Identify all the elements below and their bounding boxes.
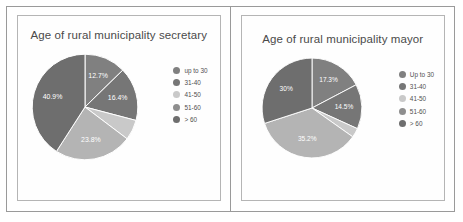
legend-item-label: > 60	[184, 116, 197, 123]
legend-item[interactable]: 31-40	[399, 82, 434, 91]
chart-panel-secretary: Age of rural municipality secretary 12.7…	[7, 7, 231, 211]
legend-item-label: > 60	[410, 120, 423, 127]
pie-chart-secretary: 12.7%16.4%23.8%40.9%	[30, 52, 140, 162]
legend-swatch-icon	[399, 83, 406, 90]
pie-chart-mayor: 17.3%14.5%35.2%30%	[260, 56, 364, 160]
page-title-secretary: Age of rural municipality secretary	[18, 29, 220, 41]
legend-item-label: 41-50	[410, 95, 426, 102]
legend-swatch-icon	[173, 91, 180, 98]
legend-swatch-icon	[399, 108, 406, 115]
pie-svg-secretary: 12.7%16.4%23.8%40.9%	[30, 52, 140, 162]
chart-inner-box-secretary: Age of rural municipality secretary 12.7…	[17, 15, 221, 201]
legend-item-label: up to 30	[184, 67, 207, 74]
legend-swatch-icon	[399, 95, 406, 102]
legend-item[interactable]: Up to 30	[399, 70, 434, 79]
pie-slice-label: 35.2%	[297, 135, 316, 142]
legend-swatch-icon	[399, 71, 406, 78]
legend-item[interactable]: > 60	[399, 119, 434, 128]
legend-item[interactable]: 51-60	[173, 103, 207, 112]
pie-slice-label: 16.4%	[108, 94, 128, 101]
legend-swatch-icon	[173, 67, 180, 74]
legend-swatch-icon	[173, 79, 180, 86]
pie-slice-label: 14.5%	[334, 103, 353, 110]
legend-item[interactable]: up to 30	[173, 66, 207, 75]
legend-swatch-icon	[173, 116, 180, 123]
legend-item[interactable]: 41-50	[399, 94, 434, 103]
page-title-mayor: Age of rural municipality mayor	[242, 33, 445, 45]
chart-legend-secretary: up to 3031-4041-5051-60> 60	[173, 66, 207, 124]
legend-item[interactable]: > 60	[173, 115, 207, 124]
chart-legend-mayor: Up to 3031-4041-5051-60> 60	[399, 70, 434, 128]
legend-item-label: 51-60	[184, 104, 200, 111]
pie-svg-mayor: 17.3%14.5%35.2%30%	[260, 56, 364, 160]
legend-item-label: 51-60	[410, 108, 426, 115]
legend-swatch-icon	[399, 120, 406, 127]
chart-panel-mayor: Age of rural municipality mayor 17.3%14.…	[231, 7, 455, 211]
pie-slice-label: 23.8%	[81, 136, 101, 143]
chart-inner-box-mayor: Age of rural municipality mayor 17.3%14.…	[241, 15, 446, 201]
legend-item-label: Up to 30	[410, 71, 434, 78]
legend-item-label: 31-40	[184, 79, 200, 86]
legend-swatch-icon	[173, 104, 180, 111]
legend-item-label: 41-50	[184, 91, 200, 98]
legend-item[interactable]: 51-60	[399, 107, 434, 116]
figure-frame: Age of rural municipality secretary 12.7…	[6, 6, 455, 212]
pie-slice-label: 30%	[279, 85, 292, 92]
legend-item-label: 31-40	[410, 83, 426, 90]
legend-item[interactable]: 41-50	[173, 90, 207, 99]
pie-slice-label: 40.9%	[43, 93, 63, 100]
pie-slice-label: 17.3%	[319, 76, 338, 83]
pie-slice-label: 12.7%	[88, 72, 108, 79]
legend-item[interactable]: 31-40	[173, 78, 207, 87]
